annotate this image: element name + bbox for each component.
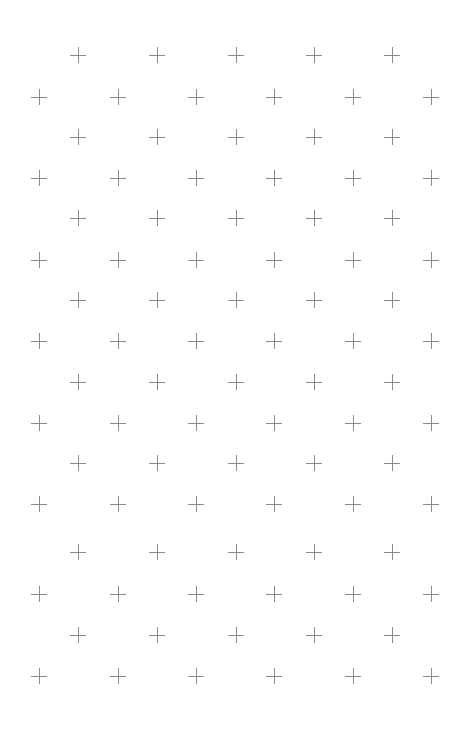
plus-icon (149, 455, 165, 471)
plus-icon (345, 333, 361, 349)
plus-icon (423, 333, 439, 349)
plus-icon (423, 170, 439, 186)
plus-icon (384, 627, 400, 643)
plus-icon (266, 415, 282, 431)
plus-icon (345, 252, 361, 268)
plus-icon (423, 252, 439, 268)
plus-icon (266, 496, 282, 512)
plus-icon (70, 292, 86, 308)
plus-icon (110, 333, 126, 349)
plus-icon (110, 668, 126, 684)
plus-icon (110, 89, 126, 105)
plus-icon (384, 210, 400, 226)
plus-icon (306, 47, 322, 63)
plus-icon (345, 415, 361, 431)
plus-icon (384, 129, 400, 145)
plus-icon (228, 374, 244, 390)
plus-icon (31, 586, 47, 602)
plus-icon (345, 586, 361, 602)
plus-icon (306, 627, 322, 643)
plus-icon (228, 455, 244, 471)
plus-icon (149, 292, 165, 308)
plus-icon (149, 47, 165, 63)
plus-icon (384, 455, 400, 471)
plus-icon (70, 627, 86, 643)
plus-icon (266, 170, 282, 186)
plus-icon (228, 129, 244, 145)
plus-icon (423, 586, 439, 602)
plus-icon (188, 170, 204, 186)
plus-icon (110, 586, 126, 602)
plus-icon (149, 374, 165, 390)
plus-icon (306, 129, 322, 145)
plus-icon (31, 333, 47, 349)
plus-icon (110, 415, 126, 431)
plus-icon (345, 496, 361, 512)
plus-icon (423, 496, 439, 512)
plus-grid-pattern (0, 0, 473, 733)
plus-icon (110, 170, 126, 186)
plus-icon (110, 496, 126, 512)
plus-icon (228, 47, 244, 63)
plus-icon (384, 544, 400, 560)
plus-icon (188, 89, 204, 105)
plus-icon (306, 292, 322, 308)
plus-icon (384, 292, 400, 308)
plus-icon (228, 210, 244, 226)
plus-icon (228, 544, 244, 560)
plus-icon (70, 374, 86, 390)
plus-icon (423, 89, 439, 105)
plus-icon (188, 415, 204, 431)
plus-icon (306, 455, 322, 471)
plus-icon (266, 89, 282, 105)
plus-icon (266, 333, 282, 349)
plus-icon (266, 586, 282, 602)
plus-icon (70, 544, 86, 560)
plus-icon (423, 415, 439, 431)
plus-icon (345, 668, 361, 684)
plus-icon (149, 129, 165, 145)
plus-icon (188, 333, 204, 349)
plus-icon (188, 496, 204, 512)
plus-icon (228, 292, 244, 308)
plus-icon (306, 210, 322, 226)
plus-icon (31, 496, 47, 512)
plus-icon (149, 627, 165, 643)
plus-icon (31, 668, 47, 684)
plus-icon (149, 544, 165, 560)
plus-icon (31, 89, 47, 105)
plus-icon (423, 668, 439, 684)
plus-icon (31, 170, 47, 186)
plus-icon (188, 586, 204, 602)
plus-icon (188, 668, 204, 684)
plus-icon (266, 252, 282, 268)
plus-icon (31, 415, 47, 431)
plus-icon (306, 374, 322, 390)
plus-icon (266, 668, 282, 684)
plus-icon (188, 252, 204, 268)
plus-icon (70, 210, 86, 226)
plus-icon (31, 252, 47, 268)
plus-icon (345, 170, 361, 186)
plus-icon (70, 455, 86, 471)
plus-icon (384, 374, 400, 390)
plus-icon (345, 89, 361, 105)
plus-icon (110, 252, 126, 268)
plus-icon (384, 47, 400, 63)
plus-icon (70, 129, 86, 145)
plus-icon (306, 544, 322, 560)
plus-icon (70, 47, 86, 63)
plus-icon (228, 627, 244, 643)
plus-icon (149, 210, 165, 226)
